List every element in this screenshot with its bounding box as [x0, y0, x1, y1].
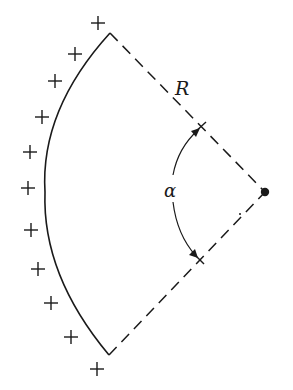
center-point	[261, 188, 269, 196]
plus-charge-icon	[44, 296, 58, 310]
plus-charge-icon	[90, 362, 104, 376]
charged-arc-diagram: R α	[0, 0, 293, 390]
plus-charge-icon	[64, 330, 78, 344]
plus-charge-icon	[31, 262, 45, 276]
plus-charge-icon	[68, 47, 82, 61]
plus-charge-icon	[23, 145, 37, 159]
angle-label: α	[164, 180, 176, 201]
angle-arc-lower	[173, 202, 196, 256]
arrowhead-lower-icon	[189, 249, 198, 258]
plus-charge-icon	[35, 110, 49, 124]
plus-charge-icon	[21, 181, 35, 195]
radius-line-lower	[109, 192, 265, 355]
angle-arc-upper	[173, 130, 198, 175]
plus-charge-icon	[24, 223, 38, 237]
radius-line-upper	[110, 33, 265, 192]
center-dot-mark	[239, 213, 241, 215]
plus-charge-icon	[48, 74, 62, 88]
radius-label: R	[174, 77, 189, 99]
plus-charge-icon	[91, 16, 105, 30]
charge-markers	[21, 16, 105, 376]
